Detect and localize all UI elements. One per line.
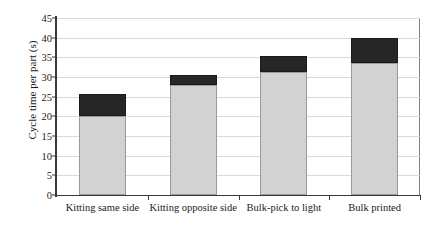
y-axis-tick-label: 35 (42, 52, 53, 63)
y-axis-tick-mark (52, 96, 56, 97)
y-axis-tick-mark (52, 77, 56, 78)
y-axis-tick-mark (52, 116, 56, 117)
x-axis-separator (148, 195, 149, 200)
bar-segment-upper[interactable] (170, 75, 217, 85)
x-axis-separator (239, 195, 240, 200)
bar-segment-upper[interactable] (79, 94, 126, 116)
y-axis-tick-mark (52, 175, 56, 176)
y-axis-tick-mark (52, 37, 56, 38)
y-axis-tick-label: 15 (42, 131, 53, 142)
bar[interactable] (79, 94, 126, 195)
plot-right-border (419, 18, 420, 195)
x-axis-category-label: Bulk printed (329, 201, 420, 214)
bar-segment-lower[interactable] (351, 63, 398, 195)
y-axis-tick-mark (52, 195, 56, 196)
y-axis-tick-mark (52, 57, 56, 58)
x-axis-separator (329, 195, 330, 200)
bar-segment-lower[interactable] (260, 72, 307, 195)
x-axis-category-label: Kitting same side (57, 201, 148, 214)
bar-segment-upper[interactable] (351, 38, 398, 63)
bar-segment-lower[interactable] (79, 116, 126, 195)
plot-area: 051015202530354045 (57, 18, 420, 195)
x-axis-separator (420, 195, 421, 200)
bar-segment-lower[interactable] (170, 85, 217, 195)
bar-segment-upper[interactable] (260, 56, 307, 72)
y-axis-tick-label: 25 (42, 91, 53, 102)
y-axis-tick-label: 20 (42, 111, 53, 122)
y-axis-tick-mark (52, 136, 56, 137)
gridline (57, 18, 420, 19)
x-axis-category-label: Kitting opposite side (148, 201, 239, 214)
y-axis-tick-mark (52, 155, 56, 156)
y-axis-title: Cycle time per part (s) (22, 0, 42, 190)
y-axis-tick-mark (52, 18, 56, 19)
bar[interactable] (351, 38, 398, 195)
x-axis-category-label: Bulk-pick to light (239, 201, 330, 214)
y-axis-tick-label: 45 (42, 13, 53, 24)
y-axis-tick-label: 40 (42, 32, 53, 43)
y-axis-tick-label: 30 (42, 72, 53, 83)
bar[interactable] (170, 75, 217, 195)
chart-figure: Cycle time per part (s) 0510152025303540… (0, 0, 438, 244)
bar[interactable] (260, 56, 307, 195)
y-axis-tick-label: 10 (42, 150, 53, 161)
